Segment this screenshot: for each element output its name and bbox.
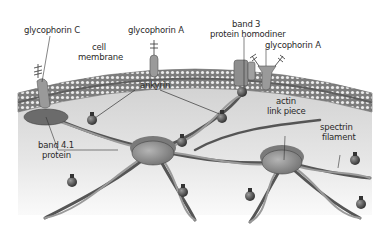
label-ankyrin: ankyrin (140, 81, 170, 91)
glycophorin-c-pointer (42, 36, 50, 82)
label-actin-line2: link piece (267, 107, 306, 117)
label-glycophorin-a-right: glycophorin A (265, 41, 321, 51)
label-cell-membrane-line2: membrane (78, 53, 123, 63)
glycophorin-a-left-protein (150, 40, 158, 77)
label-glycophorin-c: glycophorin C (24, 26, 80, 36)
actin-junction-left (130, 136, 176, 165)
label-glycophorin-a-left: glycophorin A (128, 26, 184, 36)
label-spectrin-line2: filament (322, 133, 356, 143)
label-band-4-1-line2: protein (42, 151, 71, 161)
diagram-canvas: glycophorin C cell membrane glycophorin … (0, 0, 391, 231)
actin-junction-right (260, 145, 304, 174)
label-band-3-line2: protein homodiner (210, 30, 285, 40)
